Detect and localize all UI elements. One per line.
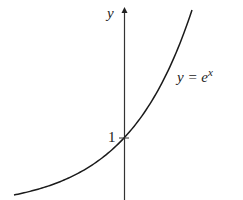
curve-label: y = ex <box>175 66 213 85</box>
intercept-label: 1 <box>108 129 116 145</box>
exponential-graph: y 1 y = ex <box>0 0 243 200</box>
y-axis-label: y <box>105 5 114 21</box>
exponential-curve <box>14 10 192 195</box>
